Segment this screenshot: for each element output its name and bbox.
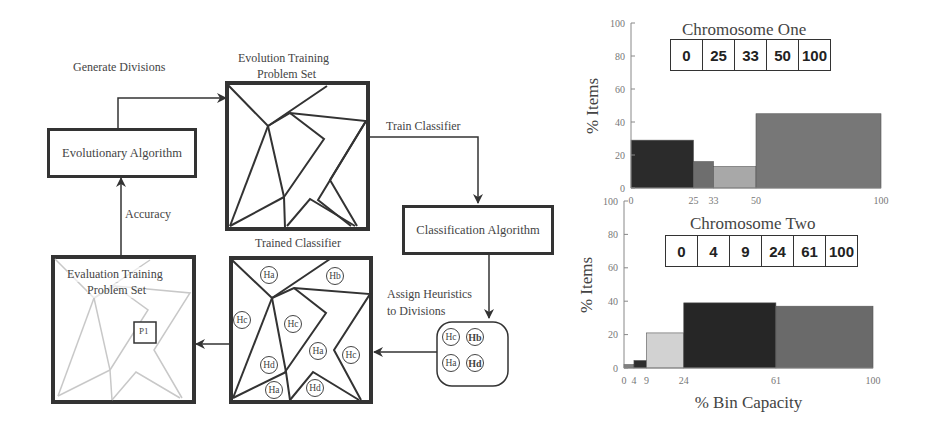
heuristic-hb-circle: Hb [326,267,344,285]
svg-text:60: 60 [608,262,618,273]
svg-text:40: 40 [608,296,618,307]
svg-text:80: 80 [615,51,625,62]
svg-text:% Items: % Items [580,257,596,313]
svg-text:100: 100 [603,196,618,207]
gene-cell: 0 [666,236,698,266]
svg-text:100: 100 [866,375,881,386]
label-train-classifier: Train Classifier [386,119,461,134]
svg-text:0: 0 [620,183,625,194]
svg-text:0: 0 [622,375,627,386]
label-p1: P1 [139,326,149,336]
svg-text:% Bin Capacity: % Bin Capacity [695,393,803,412]
histogram-bar [756,114,881,188]
label-accuracy: Accuracy [125,207,171,222]
heuristic-ha-circle: Ha [265,381,283,399]
label-evolution-set-1: Evolution Training [238,51,329,66]
svg-text:80: 80 [608,229,618,240]
svg-text:61: 61 [771,375,781,386]
evolution-problem-set [227,83,368,229]
svg-text:20: 20 [615,150,625,161]
trained-classifier [231,258,371,402]
svg-text:% Items: % Items [583,78,602,134]
svg-text:24: 24 [679,375,689,386]
label-generate-divisions: Generate Divisions [73,60,165,75]
gene-cell: 50 [767,40,799,70]
heuristic-hc-circle: Hc [233,311,251,329]
heuristic-hc-circle: Hc [442,328,460,346]
gene-cell: 25 [703,40,735,70]
label-evolution-set-2: Problem Set [257,67,316,82]
label-trained-classifier: Trained Classifier [255,236,341,251]
evolutionary-algorithm-box: Evolutionary Algorithm [47,128,197,178]
histogram-bar [684,303,776,368]
label-assign-1: Assign Heuristics [387,287,472,302]
chart2-title: Chromosome Two [690,214,816,234]
heuristic-hc-circle: Hc [342,346,360,364]
gene-cell: 4 [698,236,730,266]
chromosome-one-genes: 0253350100 [670,39,831,71]
heuristic-hd-circle: Hd [306,379,324,397]
svg-text:33: 33 [709,195,719,206]
svg-text:0: 0 [613,363,618,374]
gene-cell: 24 [762,236,794,266]
gene-cell: 100 [799,40,830,70]
gene-cell: 100 [826,236,857,266]
chromosome-two-genes: 0492461100 [665,235,858,267]
arrow-train-classifier [370,137,478,203]
svg-text:100: 100 [874,195,889,206]
svg-text:9: 9 [644,375,649,386]
histogram-bar [634,360,646,368]
heuristic-hc-circle: Hc [284,315,302,333]
gene-cell: 0 [671,40,703,70]
heuristic-ha-circle: Ha [442,354,460,372]
gene-cell: 9 [730,236,762,266]
heuristic-hd-circle: Hd [260,356,278,374]
gene-cell: 61 [794,236,826,266]
histogram-bar [694,162,714,188]
svg-text:50: 50 [751,195,761,206]
label-evaluation-2: Problem Set [87,283,146,298]
gene-cell: 33 [735,40,767,70]
histogram-bar [631,140,694,188]
heuristic-hb-circle: Hb [466,328,484,346]
svg-text:100: 100 [610,18,625,29]
label-evaluation-1: Evaluation Training [67,267,163,282]
chart1-title: Chromosome One [682,20,806,40]
histogram-bar [776,306,873,368]
label-assign-2: to Divisions [387,304,445,319]
histogram-bar [624,365,634,368]
histogram-bar [646,333,683,368]
svg-text:4: 4 [631,375,636,386]
heuristic-ha-circle: Ha [260,266,278,284]
svg-text:0: 0 [629,195,634,206]
svg-text:60: 60 [615,84,625,95]
histogram-bar [714,167,757,188]
svg-text:40: 40 [615,117,625,128]
svg-text:25: 25 [689,195,699,206]
svg-text:20: 20 [608,329,618,340]
heuristic-hd-circle: Hd [466,354,484,372]
classification-algorithm-box: Classification Algorithm [402,205,554,255]
heuristic-ha-circle: Ha [309,342,327,360]
arrow-generate-divisions [118,98,226,128]
